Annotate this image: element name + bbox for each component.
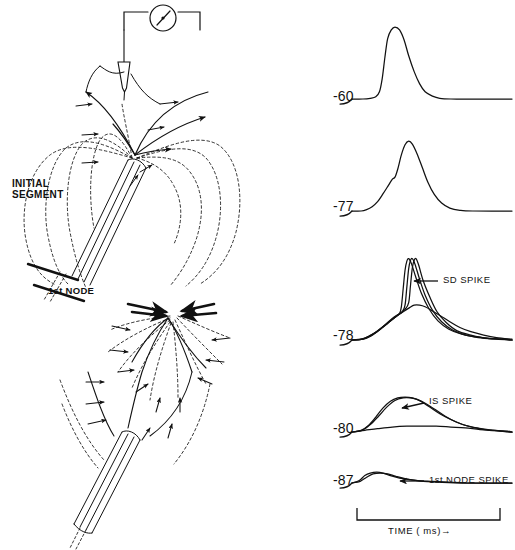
- time-axis-text: TIME ( ms): [388, 525, 441, 536]
- trace-panel-77: [340, 141, 512, 216]
- trace-panel-78: [340, 258, 512, 345]
- field-lines-converging: [108, 316, 230, 400]
- trace-line: [352, 259, 512, 340]
- micropipette-electrode: [118, 30, 130, 100]
- time-axis-label: TIME ( ms)→: [388, 526, 451, 537]
- trace-label-80: -80: [333, 421, 354, 437]
- trace-label-77: -77: [333, 199, 354, 215]
- neurophysiology-figure: -60 -77 -78 -80 -87 SD SPIKE IS SPIKE 1s…: [0, 0, 515, 550]
- initial-segment-label: INITIALSEGMENT: [12, 178, 64, 200]
- annotation-is-spike: IS SPIKE: [429, 396, 472, 407]
- converging-direction-arrows: [86, 326, 230, 440]
- is-spike-arrow: [402, 403, 424, 408]
- trace-line: [352, 141, 512, 211]
- annotation-node-spike: 1st NODE SPIKE: [429, 475, 509, 486]
- lower-axon-tube: [74, 431, 140, 533]
- lower-outer-field: [60, 380, 210, 468]
- annotation-sd-spike: SD SPIKE: [443, 275, 490, 286]
- time-scalebar: [357, 508, 500, 520]
- figure-canvas: [0, 0, 515, 550]
- first-node-label: 1st NODE: [48, 286, 94, 297]
- antidromic-invasion-diagram: [24, 5, 240, 302]
- lower-axon-continuation: [70, 528, 86, 549]
- trace-panel-60: [340, 27, 512, 104]
- initial-segment-line1: INITIAL: [12, 178, 49, 189]
- trace-label-78: -78: [333, 328, 354, 344]
- trace-panel-80: [340, 397, 512, 437]
- apex-arrows: [128, 304, 216, 316]
- trace-line: [352, 305, 512, 340]
- initial-segment-line2: SEGMENT: [12, 189, 64, 200]
- solid-current-lines: [86, 92, 208, 155]
- trace-line: [352, 258, 512, 340]
- trace-label-87: -87: [333, 473, 354, 489]
- recording-traces: [340, 27, 512, 488]
- trace-line: [352, 27, 512, 99]
- trace-label-60: -60: [333, 89, 354, 105]
- trace-line: [352, 258, 512, 340]
- initial-segment-axon: [72, 159, 146, 285]
- soma-dendritic-current-diagram: [60, 304, 230, 549]
- field-lines-right: [137, 140, 240, 286]
- time-axis-arrow: →: [441, 525, 451, 536]
- recording-circuit: [124, 5, 200, 31]
